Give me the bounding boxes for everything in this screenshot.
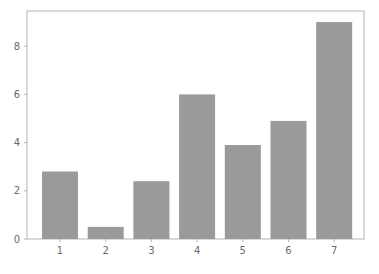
bar-1 (42, 172, 78, 240)
x-tick-label: 5 (240, 245, 246, 256)
x-tick-label: 4 (194, 245, 200, 256)
y-tick-label: 8 (14, 41, 20, 52)
bar-5 (225, 145, 261, 239)
bar-6 (271, 121, 307, 239)
y-axis: 02468 (14, 41, 27, 245)
y-tick-label: 0 (14, 234, 20, 245)
x-axis: 1234567 (57, 239, 338, 256)
x-tick-label: 3 (148, 245, 154, 256)
bar-3 (133, 181, 169, 239)
bar-7 (316, 22, 352, 239)
bar-2 (88, 227, 124, 239)
y-tick-label: 2 (14, 185, 20, 196)
bar-chart: 02468 1234567 (0, 0, 379, 274)
y-tick-label: 4 (14, 137, 20, 148)
x-tick-label: 2 (103, 245, 109, 256)
x-tick-label: 1 (57, 245, 63, 256)
y-tick-label: 6 (14, 89, 20, 100)
bar-4 (179, 94, 215, 239)
x-tick-label: 6 (285, 245, 291, 256)
x-tick-label: 7 (331, 245, 337, 256)
